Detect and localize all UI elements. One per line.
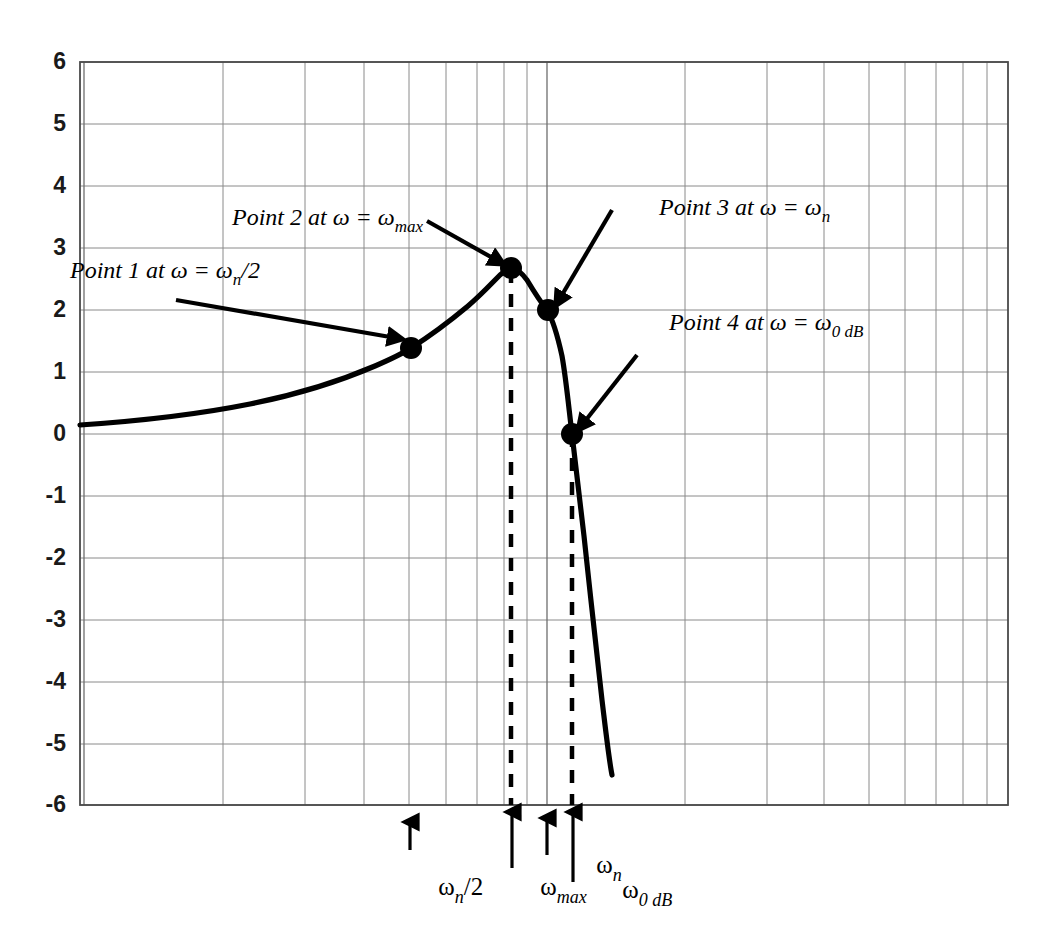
annotation-labels: Point 1 at ω = ωn/2 Point 2 at ω = ωmax … bbox=[16, 194, 905, 342]
magnitude-response-curve bbox=[80, 268, 612, 775]
point-1-marker bbox=[400, 337, 422, 359]
plot-grid bbox=[80, 62, 1008, 805]
point-4-marker bbox=[561, 423, 583, 445]
point-4-prefix: Point 4 at ω = ω bbox=[668, 309, 832, 335]
bode-magnitude-figure: 6 5 4 3 2 1 0 -1 -2 -3 -4 -5 -6 bbox=[0, 0, 1053, 937]
point-3-marker bbox=[537, 299, 559, 321]
y-tick-label: 1 bbox=[53, 358, 66, 384]
point-1-prefix: Point 1 at ω = ω bbox=[69, 257, 233, 283]
x-axis-tick-labels: ωn/2 ωmax ωn ω0 dB bbox=[382, 851, 716, 911]
omega-n-half-subscript: n bbox=[455, 887, 464, 907]
point-2-annotation: Point 2 at ω = ωmax bbox=[178, 204, 465, 237]
y-axis-ticks: 6 5 4 3 2 1 0 -1 -2 -3 -4 -5 -6 bbox=[46, 48, 67, 817]
point-3-annotation: Point 3 at ω = ωn bbox=[605, 194, 872, 227]
point-1-suffix: /2 bbox=[239, 257, 260, 283]
point-1-subscript: n bbox=[233, 270, 242, 289]
omega-glyph: ω bbox=[596, 851, 612, 878]
y-tick-label: 2 bbox=[53, 296, 66, 322]
y-tick-label: 4 bbox=[53, 172, 66, 198]
y-tick-label: 0 bbox=[53, 420, 66, 446]
y-tick-label: -1 bbox=[46, 482, 67, 508]
y-tick-label: 5 bbox=[53, 110, 66, 136]
y-tick-label: -4 bbox=[46, 668, 67, 694]
point-3-prefix: Point 3 at ω = ω bbox=[658, 194, 822, 220]
omega-glyph: ω bbox=[438, 873, 454, 900]
point-4-leader bbox=[582, 355, 637, 425]
y-tick-label: 6 bbox=[53, 48, 66, 74]
omega-n-half-suffix: /2 bbox=[464, 873, 483, 900]
point-1-leader bbox=[176, 300, 396, 338]
y-tick-label: -5 bbox=[46, 730, 67, 756]
point-2-subscript: max bbox=[395, 217, 424, 236]
point-2-marker bbox=[500, 257, 522, 279]
omega-0db-subscript: 0 dB bbox=[639, 890, 673, 910]
point-4-annotation: Point 4 at ω = ω0 dB bbox=[615, 309, 905, 342]
point-3-subscript: n bbox=[822, 207, 831, 226]
point-4-subscript: 0 dB bbox=[832, 322, 864, 341]
point-1-annotation: Point 1 at ω = ωn/2 bbox=[16, 257, 302, 289]
y-tick-label: -2 bbox=[46, 544, 66, 570]
omega-glyph: ω bbox=[622, 876, 638, 903]
y-tick-label: -3 bbox=[46, 606, 66, 632]
point-2-prefix: Point 2 at ω = ω bbox=[231, 204, 395, 230]
y-tick-label: -6 bbox=[46, 791, 66, 817]
point-3-leader bbox=[559, 210, 612, 300]
